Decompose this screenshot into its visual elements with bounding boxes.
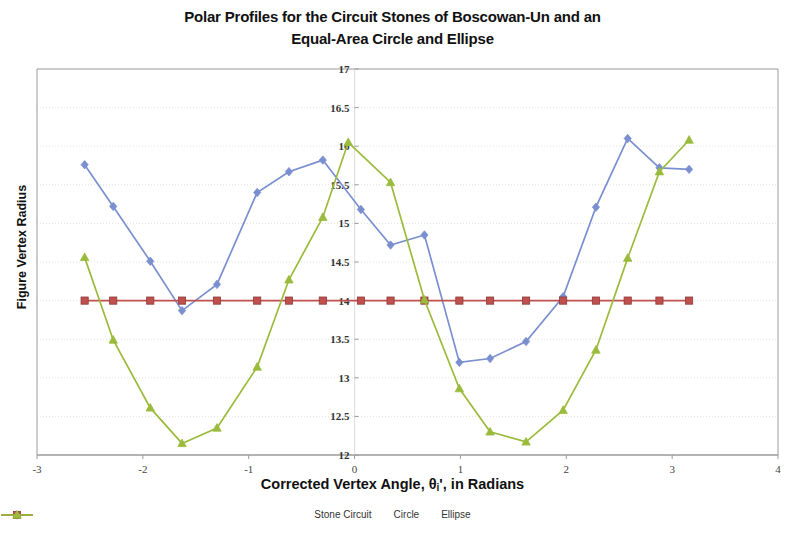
legend-label: Ellipse <box>441 509 470 520</box>
series-stone-circuit <box>81 134 693 366</box>
data-point-marker <box>456 358 463 366</box>
data-point-marker <box>147 297 154 304</box>
data-point-marker <box>456 297 463 304</box>
chart-legend: Stone CircuitCircleEllipse <box>0 509 785 520</box>
chart-figure: Polar Profiles for the Circuit Stones of… <box>0 0 785 534</box>
data-point-marker <box>285 167 292 175</box>
legend-label: Circle <box>394 509 420 520</box>
data-point-marker <box>319 297 326 304</box>
data-point-marker <box>624 297 631 304</box>
data-point-marker <box>421 231 428 239</box>
data-point-marker <box>81 297 88 304</box>
x-tick-label: 3 <box>669 463 675 475</box>
x-tick-label: -2 <box>138 463 147 475</box>
y-tick-label: 14.5 <box>330 256 350 268</box>
plot-area: -3-2-1012341212.51313.51414.51515.51616.… <box>0 0 785 534</box>
data-point-marker <box>623 254 631 262</box>
legend-item-stone-circuit[interactable]: Stone Circuit <box>314 509 371 520</box>
legend-label: Stone Circuit <box>314 509 371 520</box>
x-tick-label: 2 <box>564 463 570 475</box>
data-point-marker <box>685 165 692 173</box>
x-tick-label: -3 <box>32 463 42 475</box>
series-ellipse <box>80 136 693 447</box>
data-point-marker <box>522 297 529 304</box>
data-point-marker <box>592 203 599 211</box>
x-axis-title-suffix: ', in Radians <box>439 476 524 492</box>
data-point-marker <box>559 406 567 414</box>
x-axis-title-prefix: Corrected Vertex Angle, θ <box>261 476 437 492</box>
y-tick-label: 13.5 <box>330 333 350 345</box>
y-tick-label: 17 <box>339 63 351 75</box>
y-tick-label: 12.5 <box>330 410 350 422</box>
data-point-marker <box>109 336 117 344</box>
x-tick-label: 0 <box>352 463 358 475</box>
data-point-marker <box>685 297 692 304</box>
data-point-marker <box>285 297 292 304</box>
data-point-marker <box>254 188 261 196</box>
x-tick-label: 4 <box>775 463 781 475</box>
data-point-marker <box>592 297 599 304</box>
y-tick-label: 12 <box>339 449 351 461</box>
y-tick-label: 16.5 <box>330 102 350 114</box>
data-point-marker <box>253 363 261 371</box>
triangle-marker-icon <box>0 509 34 521</box>
data-point-marker <box>357 297 364 304</box>
legend-item-ellipse[interactable]: Ellipse <box>441 509 470 520</box>
series-line <box>85 138 689 362</box>
legend-item-circle[interactable]: Circle <box>394 509 420 520</box>
data-point-marker <box>110 297 117 304</box>
data-point-marker <box>285 275 293 283</box>
data-point-marker <box>387 297 394 304</box>
x-axis-title: Corrected Vertex Angle, θi', in Radians <box>0 476 785 493</box>
data-point-marker <box>213 297 220 304</box>
data-point-marker <box>592 346 600 354</box>
data-point-marker <box>560 297 567 304</box>
data-point-marker <box>178 297 185 304</box>
series-circle <box>81 297 693 304</box>
data-point-marker <box>319 213 327 221</box>
data-point-marker <box>80 253 88 261</box>
y-tick-label: 15 <box>339 217 351 229</box>
x-tick-label: -1 <box>244 463 253 475</box>
data-point-marker <box>146 404 154 412</box>
y-tick-label: 13 <box>339 372 351 384</box>
data-point-marker <box>455 384 463 392</box>
data-point-marker <box>656 297 663 304</box>
data-point-marker <box>486 297 493 304</box>
data-point-marker <box>685 136 693 144</box>
data-point-marker <box>254 297 261 304</box>
x-tick-label: 1 <box>458 463 464 475</box>
data-point-marker <box>486 354 493 362</box>
